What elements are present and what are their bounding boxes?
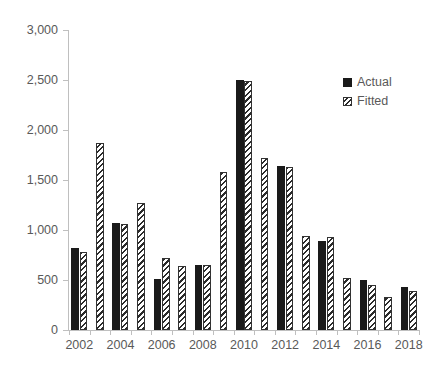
x-tick <box>172 330 173 335</box>
bar-fitted-2010 <box>244 81 252 330</box>
x-tick-label-2006: 2006 <box>140 338 184 352</box>
bar-fitted-2017 <box>384 297 392 330</box>
bar-fitted-2003 <box>96 143 104 330</box>
bar-actual-2002 <box>71 248 79 330</box>
x-tick <box>193 330 194 335</box>
bar-actual-2018 <box>401 287 409 330</box>
bar-fitted-2008 <box>203 265 211 331</box>
chart-legend: Actual Fitted <box>343 73 392 111</box>
x-tick-label-2008: 2008 <box>181 338 225 352</box>
x-tick <box>398 330 399 335</box>
x-tick <box>419 330 420 335</box>
bar-fitted-2014 <box>327 237 335 331</box>
y-tick-label: 0 <box>0 324 58 336</box>
bar-fitted-2018 <box>409 291 417 331</box>
legend-label-fitted: Fitted <box>357 92 388 111</box>
x-tick <box>254 330 255 335</box>
x-tick <box>357 330 358 335</box>
bar-fitted-2012 <box>286 167 294 330</box>
bar-fitted-2002 <box>80 252 88 330</box>
x-tick <box>275 330 276 335</box>
bar-actual-2008 <box>195 265 203 330</box>
bar-chart: 05001,0001,5002,0002,5003,000 2002200420… <box>0 0 434 374</box>
x-tick <box>69 330 70 335</box>
x-tick-label-2010: 2010 <box>222 338 266 352</box>
x-tick <box>213 330 214 335</box>
x-tick <box>337 330 338 335</box>
bar-fitted-2011 <box>261 158 269 331</box>
bar-actual-2010 <box>236 80 244 331</box>
y-tick-label: 1,500 <box>0 174 58 186</box>
bar-actual-2014 <box>318 241 326 330</box>
x-tick <box>90 330 91 335</box>
x-axis-line <box>68 330 419 331</box>
bar-actual-2004 <box>112 223 120 330</box>
bar-fitted-2004 <box>121 224 129 330</box>
x-tick <box>110 330 111 335</box>
y-tick-label: 1,000 <box>0 224 58 236</box>
x-tick <box>131 330 132 335</box>
hatched-square-icon <box>343 97 352 106</box>
bar-fitted-2005 <box>137 203 145 330</box>
legend-item-actual: Actual <box>343 73 392 92</box>
x-tick <box>378 330 379 335</box>
bar-fitted-2013 <box>302 236 310 330</box>
bar-fitted-2009 <box>220 172 228 330</box>
bar-actual-2006 <box>154 279 162 330</box>
x-tick-label-2004: 2004 <box>98 338 142 352</box>
x-tick <box>234 330 235 335</box>
x-tick <box>151 330 152 335</box>
bar-actual-2016 <box>360 280 368 330</box>
y-tick-label: 2,000 <box>0 124 58 136</box>
solid-square-icon <box>343 78 352 87</box>
bar-fitted-2006 <box>162 258 170 330</box>
legend-label-actual: Actual <box>357 73 392 92</box>
y-tick-label: 500 <box>0 274 58 286</box>
bar-fitted-2016 <box>368 285 376 330</box>
bar-fitted-2007 <box>178 266 186 330</box>
x-tick-label-2014: 2014 <box>304 338 348 352</box>
x-tick <box>295 330 296 335</box>
x-tick-label-2018: 2018 <box>387 338 431 352</box>
y-tick-label: 3,000 <box>0 24 58 36</box>
x-tick-label-2002: 2002 <box>57 338 101 352</box>
legend-item-fitted: Fitted <box>343 92 392 111</box>
x-tick-label-2016: 2016 <box>346 338 390 352</box>
bar-actual-2012 <box>277 166 285 330</box>
x-tick <box>316 330 317 335</box>
bar-fitted-2015 <box>343 278 351 331</box>
y-tick-label: 2,500 <box>0 74 58 86</box>
x-tick-label-2012: 2012 <box>263 338 307 352</box>
